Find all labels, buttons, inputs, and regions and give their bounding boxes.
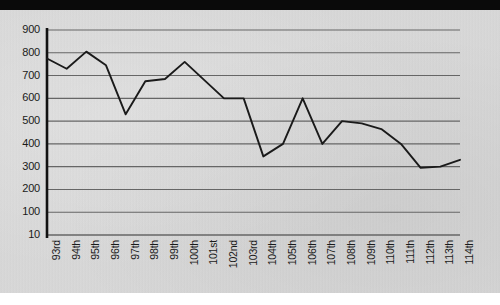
y-axis-tick-label: 100 <box>6 206 40 217</box>
x-axis-tick-label: 107th <box>326 240 336 265</box>
x-axis-tick-label: 96th <box>110 240 120 260</box>
series-line <box>47 52 460 168</box>
y-axis-tick-label: 10 <box>6 229 40 240</box>
x-axis-tick-label: 106th <box>307 240 317 265</box>
x-axis-tick-label: 114th <box>464 240 474 265</box>
x-axis-tick-label: 113th <box>444 240 454 265</box>
x-axis-tick-label: 111th <box>405 240 415 264</box>
x-axis-tick-label: 97th <box>130 240 140 260</box>
x-axis-tick-label: 95th <box>90 240 100 260</box>
data-series-line <box>47 52 460 168</box>
x-axis-tick-label: 109th <box>366 240 376 265</box>
x-axis-tick-label: 102nd <box>228 240 238 268</box>
x-axis-tick-label: 104th <box>267 240 277 265</box>
x-axis-tick-label: 98th <box>149 240 159 260</box>
chart-figure: 90080070060050040030020010010 93rd94th95… <box>0 0 500 305</box>
x-axis-tick-label: 99th <box>169 240 179 260</box>
x-axis-tick-label: 103rd <box>248 240 258 266</box>
y-axis-tick-label: 900 <box>6 24 40 35</box>
x-axis-tick-label: 100th <box>189 240 199 265</box>
x-axis-tick-label: 101st <box>208 240 218 265</box>
x-axis-tick-label: 93rd <box>51 240 61 260</box>
x-axis-tick-label: 105th <box>287 240 297 265</box>
gridlines <box>47 30 460 235</box>
x-axis-tick-label: 108th <box>346 240 356 265</box>
y-axis-tick-label: 500 <box>6 115 40 126</box>
x-axis-tick-label: 94th <box>71 240 81 260</box>
y-axis-tick-label: 400 <box>6 138 40 149</box>
y-axis-tick-label: 600 <box>6 92 40 103</box>
y-axis-tick-label: 800 <box>6 47 40 58</box>
x-axis-tick-label: 112th <box>425 240 435 265</box>
y-axis-tick-label: 300 <box>6 161 40 172</box>
y-axis-tick-label: 200 <box>6 183 40 194</box>
y-axis-tick-label: 700 <box>6 70 40 81</box>
x-axis-tick-label: 110th <box>385 240 395 265</box>
